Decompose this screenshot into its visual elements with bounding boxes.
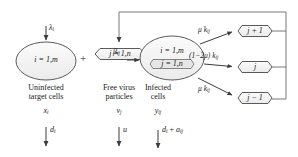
infected-cells-death-rate-label: di + aij — [162, 126, 183, 135]
infected-cells-caption: Infected cells — [126, 84, 190, 101]
mutant-up-label: j + 1 — [235, 27, 275, 35]
target-cells-death-rate-label: di — [50, 126, 56, 135]
production-rate-label: λi — [49, 24, 54, 33]
diagram-canvas — [0, 0, 298, 157]
target-cells-caption: Uninfected target cells — [6, 84, 86, 101]
infected-cells-state-variable: yij — [143, 107, 173, 116]
mutation-same-rate-label: (1−2μ) kij — [189, 52, 218, 60]
virus-clearance-rate-label: u — [123, 126, 127, 135]
viral-dynamics-diagram: i = 1,m j = 1,n i = 1,m j = 1,n j + 1 j … — [0, 0, 298, 157]
infection-rate-label: βij — [113, 48, 120, 57]
mutation-up-rate-label: μ kij — [198, 26, 210, 34]
virus-particles-state-variable: vj — [104, 107, 134, 116]
mutation-same-arrow — [204, 64, 232, 67]
infected-cells-index-label-bottom: j = 1,n — [142, 60, 202, 68]
mutation-down-rate-label: μ kij — [198, 85, 210, 93]
mutant-same-label: j — [235, 63, 275, 71]
mutant-down-label: j − 1 — [235, 94, 275, 102]
target-cells-index-label: i = 1,m — [16, 56, 76, 64]
plus-operator: + — [80, 53, 86, 64]
target-cells-state-variable: xi — [31, 107, 61, 116]
